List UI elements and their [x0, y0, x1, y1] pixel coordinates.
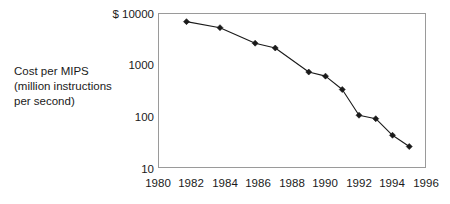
- series-line-cost-per-mips: [186, 22, 409, 147]
- x-tick-label-1994: 1994: [379, 176, 405, 190]
- x-tick-label-1984: 1984: [212, 176, 238, 190]
- data-point-marker: [183, 19, 189, 25]
- x-tick-label-1996: 1996: [413, 176, 439, 190]
- x-tick-label-1980: 1980: [145, 176, 171, 190]
- data-point-marker: [252, 40, 258, 46]
- data-point-marker: [217, 25, 223, 31]
- x-tick-label-1988: 1988: [279, 176, 305, 190]
- data-point-marker: [356, 112, 362, 118]
- chart-figure: Cost per MIPS (million instructions per …: [0, 0, 450, 204]
- data-point-marker: [406, 144, 412, 150]
- y-axis-tick-labels: $ 10000 1000 100 10: [96, 0, 154, 204]
- series-markers-cost-per-mips: [183, 19, 412, 150]
- plot-canvas: [158, 13, 426, 168]
- x-tick-label-1982: 1982: [178, 176, 204, 190]
- y-tick-label-10: 10: [96, 163, 154, 175]
- y-tick-label-1000: 1000: [96, 59, 154, 71]
- x-tick-label-1992: 1992: [346, 176, 372, 190]
- x-tick-label-1990: 1990: [312, 176, 338, 190]
- y-tick-label-100: 100: [96, 111, 154, 123]
- y-tick-label-10000: $ 10000: [96, 8, 154, 20]
- x-tick-label-1986: 1986: [245, 176, 271, 190]
- x-axis-tick-labels: 1980 1982 1984 1986 1988 1990 1992 1994 …: [0, 176, 450, 192]
